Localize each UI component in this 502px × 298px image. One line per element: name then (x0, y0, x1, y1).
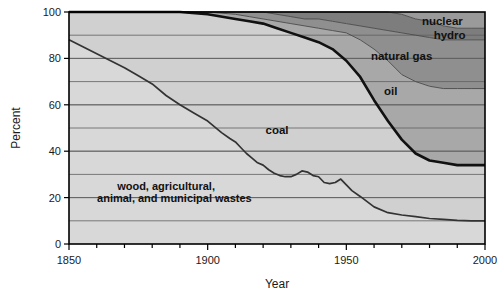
nuclear-label: nuclear (422, 15, 463, 27)
y-tick-label: 60 (49, 99, 61, 111)
x-tick-label: 1950 (334, 254, 358, 266)
y-tick-label: 20 (49, 192, 61, 204)
oil-label: oil (384, 85, 397, 97)
y-tick-label: 0 (55, 238, 61, 250)
x-tick-label: 1900 (195, 254, 219, 266)
y-tick-label: 40 (49, 145, 61, 157)
y-tick-label: 80 (49, 52, 61, 64)
x-axis-title: Year (265, 277, 289, 291)
y-tick-label: 100 (43, 6, 61, 18)
x-tick-label: 2000 (473, 254, 497, 266)
wood-wastes-label-line2: animal, and municipal wastes (97, 192, 252, 204)
wood-wastes-label: wood, agricultural, (116, 180, 215, 192)
y-axis-title: Percent (9, 107, 23, 149)
hydro-label: hydro (434, 29, 466, 41)
coal-label: coal (265, 124, 288, 136)
energy-consumption-area-chart: 020406080100 1850190019502000 Percent Ye… (0, 0, 502, 298)
natural-gas-label: natural gas (371, 50, 432, 62)
x-tick-label: 1850 (57, 254, 81, 266)
chart-svg: 020406080100 1850190019502000 Percent Ye… (0, 0, 502, 298)
